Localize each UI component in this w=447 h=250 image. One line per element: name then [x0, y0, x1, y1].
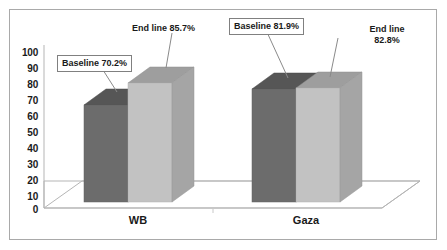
- leader-line-gaza-endline: [330, 38, 338, 77]
- annotation-gaza-endline: End line 82.8%: [358, 24, 416, 46]
- y-tick-40: 40: [8, 144, 38, 154]
- bar-front-face: [84, 105, 128, 202]
- x-label-gaza: Gaza: [261, 214, 351, 226]
- annotation-gaza-endline-line1: End line: [369, 24, 404, 34]
- bar-wb-endline: [128, 67, 194, 202]
- chart-container: 100 90 80 70 60 50 40 30 20 10 0 WB Gaza…: [0, 0, 447, 250]
- y-tick-80: 80: [8, 80, 38, 90]
- x-label-wb: WB: [93, 214, 183, 226]
- y-tick-10: 10: [8, 192, 38, 202]
- y-tick-30: 30: [8, 160, 38, 170]
- leader-line-gaza-baseline: [266, 30, 288, 78]
- annotation-wb-baseline: Baseline 70.2%: [57, 55, 132, 72]
- bar-side-face: [340, 72, 362, 202]
- annotation-wb-endline: End line 85.7%: [132, 23, 195, 34]
- y-tick-100: 100: [8, 48, 38, 58]
- y-tick-70: 70: [8, 96, 38, 106]
- y-tick-60: 60: [8, 112, 38, 122]
- bar-front-face: [252, 89, 296, 202]
- y-tick-50: 50: [8, 128, 38, 138]
- leader-line-wb-endline: [166, 33, 172, 68]
- y-tick-90: 90: [8, 64, 38, 74]
- bar-front-face: [128, 83, 172, 202]
- y-tick-0: 0: [8, 205, 38, 215]
- annotation-gaza-endline-line2: 82.8%: [374, 35, 400, 45]
- bar-gaza-endline: [296, 72, 362, 202]
- annotation-gaza-baseline: Baseline 81.9%: [229, 18, 304, 35]
- leader-line-wb-baseline: [103, 70, 117, 92]
- bar-front-face: [296, 88, 340, 202]
- y-tick-20: 20: [8, 176, 38, 186]
- bar-side-face: [172, 67, 194, 202]
